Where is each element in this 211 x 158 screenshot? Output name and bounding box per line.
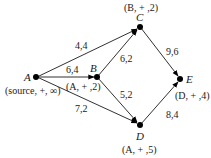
flow-network-diagram: A B C D E (source, +, ∞) (A, + ,2) (B, +… <box>0 0 211 158</box>
node-E-tag: (D, + ,4) <box>175 90 210 102</box>
node-B-name: B <box>90 62 97 74</box>
node-B-tag: (A, + ,2) <box>66 81 101 93</box>
node-C <box>137 24 143 30</box>
edge-B-D-label: 5,2 <box>120 89 133 100</box>
edge-A-D-label: 7,2 <box>75 103 88 114</box>
node-B <box>94 74 100 80</box>
node-A-name: A <box>23 71 31 83</box>
node-A <box>33 74 39 80</box>
edge-B-D <box>98 78 137 122</box>
node-D-tag: (A, + ,5) <box>122 144 157 156</box>
edge-A-C-label: 4,4 <box>75 40 88 51</box>
edge-D-E-label: 8,4 <box>166 109 179 120</box>
node-E <box>177 76 183 82</box>
edge-B-C-label: 6,2 <box>120 53 133 64</box>
edge-A-B-label: 6,4 <box>66 64 79 75</box>
node-C-tag: (B, + ,2) <box>124 2 158 14</box>
node-D-name: D <box>135 130 144 142</box>
node-D <box>137 122 143 128</box>
node-A-tag: (source, +, ∞) <box>5 85 61 97</box>
node-E-name: E <box>185 73 193 85</box>
edge-C-E-label: 9,6 <box>166 46 179 57</box>
